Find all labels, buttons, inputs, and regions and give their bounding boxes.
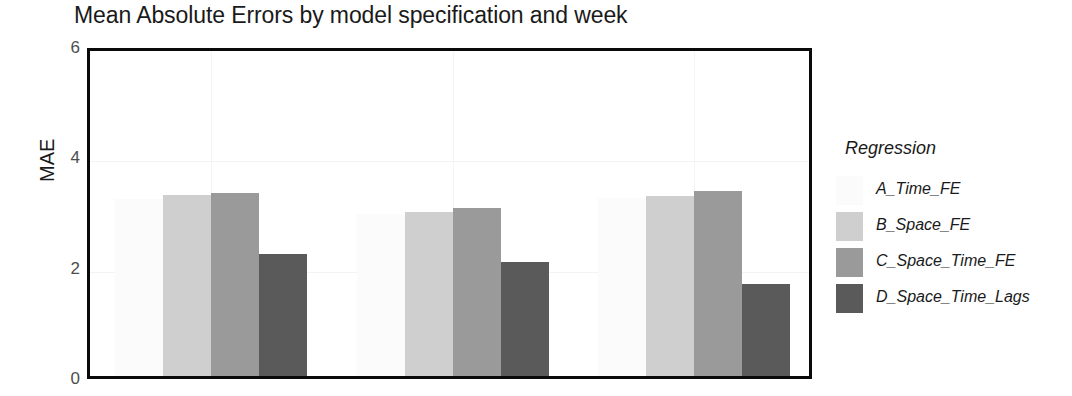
bar[interactable] [357,214,405,376]
bar[interactable] [211,193,259,376]
legend-label: C_Space_Time_FE [876,252,1015,270]
y-tick-label: 4 [56,149,80,166]
bar[interactable] [405,212,453,376]
legend-label: D_Space_Time_Lags [876,288,1030,306]
y-axis: MAE 0246 [50,0,80,396]
bar[interactable] [163,195,211,376]
y-tick-label: 6 [56,39,80,56]
bar[interactable] [742,284,790,376]
bar[interactable] [453,208,501,376]
legend-label: A_Time_FE [876,180,960,198]
chart-figure: Mean Absolute Errors by model specificat… [0,0,1072,396]
gridline-horizontal [90,161,809,162]
legend-swatch [836,248,863,277]
bar[interactable] [115,199,163,376]
bar[interactable] [598,198,646,376]
legend-label: B_Space_FE [876,216,970,234]
bar[interactable] [646,196,694,376]
y-tick-label: 2 [56,260,80,277]
plot-area [87,48,812,379]
chart-title: Mean Absolute Errors by model specificat… [74,2,627,29]
legend-swatch [836,212,863,241]
bar[interactable] [501,262,549,376]
legend-swatch [836,284,863,313]
bar[interactable] [259,254,307,376]
bar[interactable] [694,191,742,376]
y-tick-label: 0 [56,370,80,387]
legend-swatch [836,176,863,205]
legend-title: Regression [845,138,936,159]
